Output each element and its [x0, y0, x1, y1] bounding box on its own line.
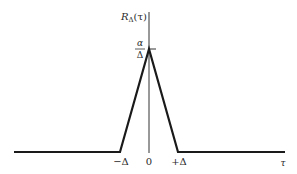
peak-label-denominator: Δ — [137, 50, 144, 60]
x-tick-minus-delta: −Δ — [113, 156, 129, 167]
x-axis-label: τ — [281, 158, 287, 168]
x-tick-zero: 0 — [146, 156, 152, 167]
autocorrelation-diagram: RΔ(τ) α Δ −Δ 0 +Δ τ — [0, 0, 297, 174]
x-tick-plus-delta: +Δ — [171, 156, 187, 167]
peak-label-numerator: α — [137, 38, 143, 48]
y-axis-label: RΔ(τ) — [120, 11, 147, 24]
